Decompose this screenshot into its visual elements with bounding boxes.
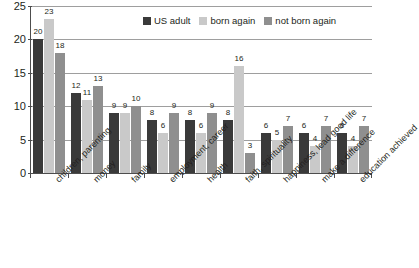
bar-value-label: 6: [161, 122, 165, 130]
bar-value-label: 8: [188, 109, 192, 117]
legend-item[interactable]: US adult: [143, 15, 190, 26]
legend-item[interactable]: not born again: [264, 15, 336, 26]
bar: 11: [82, 100, 92, 173]
bar: 9: [120, 113, 130, 173]
bar-value-label: 3: [248, 142, 252, 150]
y-tick-label: 0: [0, 168, 26, 179]
bar: 16: [234, 66, 244, 173]
bar: 6: [158, 133, 168, 173]
legend-label: not born again: [275, 15, 336, 26]
bar: 23: [44, 19, 54, 173]
bar-value-label: 16: [235, 55, 244, 63]
bar: 10: [131, 106, 141, 173]
bar-value-label: 12: [72, 82, 81, 90]
bar-value-label: 9: [123, 102, 127, 110]
bar-group: 9910: [106, 6, 144, 173]
y-tick-label: 25: [0, 1, 26, 12]
bar-value-label: 7: [286, 115, 290, 123]
bar-value-label: 6: [199, 122, 203, 130]
bar-group: 8163: [220, 6, 258, 173]
bar-group: 202318: [30, 6, 68, 173]
bar-value-label: 20: [34, 28, 43, 36]
bar-value-label: 10: [132, 95, 141, 103]
bar-value-label: 6: [264, 122, 268, 130]
y-tick-label: 15: [0, 67, 26, 78]
y-tick-label: 10: [0, 101, 26, 112]
bar-value-label: 23: [45, 8, 54, 16]
legend-item[interactable]: born again: [199, 15, 255, 26]
bar-value-label: 6: [302, 122, 306, 130]
category-labels: children, parentingmoneyfamilyemployment…: [30, 178, 372, 266]
y-tick-label: 5: [0, 134, 26, 145]
legend-label: born again: [210, 15, 255, 26]
legend-swatch-icon: [143, 17, 151, 25]
legend-label: US adult: [154, 15, 190, 26]
bar-value-label: 8: [150, 109, 154, 117]
bar-value-label: 8: [226, 109, 230, 117]
bar-value-label: 18: [56, 42, 65, 50]
legend-swatch-icon: [199, 17, 207, 25]
legend-swatch-icon: [264, 17, 272, 25]
bar-value-label: 9: [172, 102, 176, 110]
bar-value-label: 9: [112, 102, 116, 110]
bar: 9: [169, 113, 179, 173]
chart-legend: US adultborn againnot born again: [143, 15, 336, 26]
bar-group: 869: [144, 6, 182, 173]
bar: 18: [55, 53, 65, 173]
bar-value-label: 13: [94, 75, 103, 83]
bar-value-label: 7: [362, 115, 366, 123]
bar-value-label: 9: [210, 102, 214, 110]
bar-value-label: 11: [83, 89, 91, 97]
bar: 20: [33, 39, 43, 173]
bar-value-label: 7: [324, 115, 328, 123]
y-tick-label: 20: [0, 34, 26, 45]
bar-value-label: 5: [275, 129, 279, 137]
